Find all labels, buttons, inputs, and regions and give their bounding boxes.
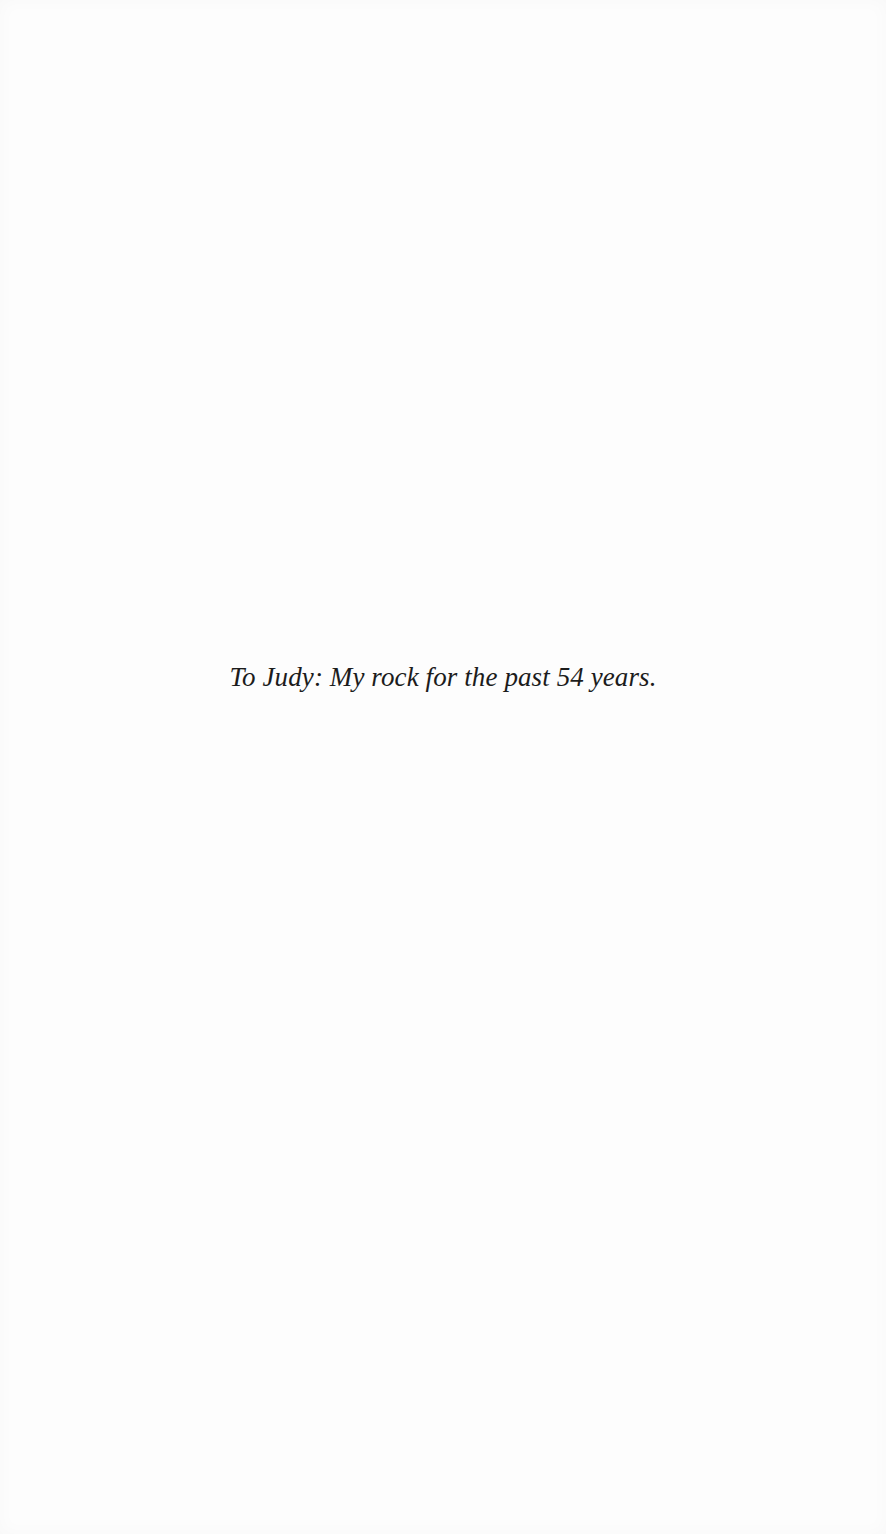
dedication-text: To Judy: My rock for the past 54 years. — [0, 657, 886, 697]
dedication-page: To Judy: My rock for the past 54 years. — [0, 0, 886, 1534]
